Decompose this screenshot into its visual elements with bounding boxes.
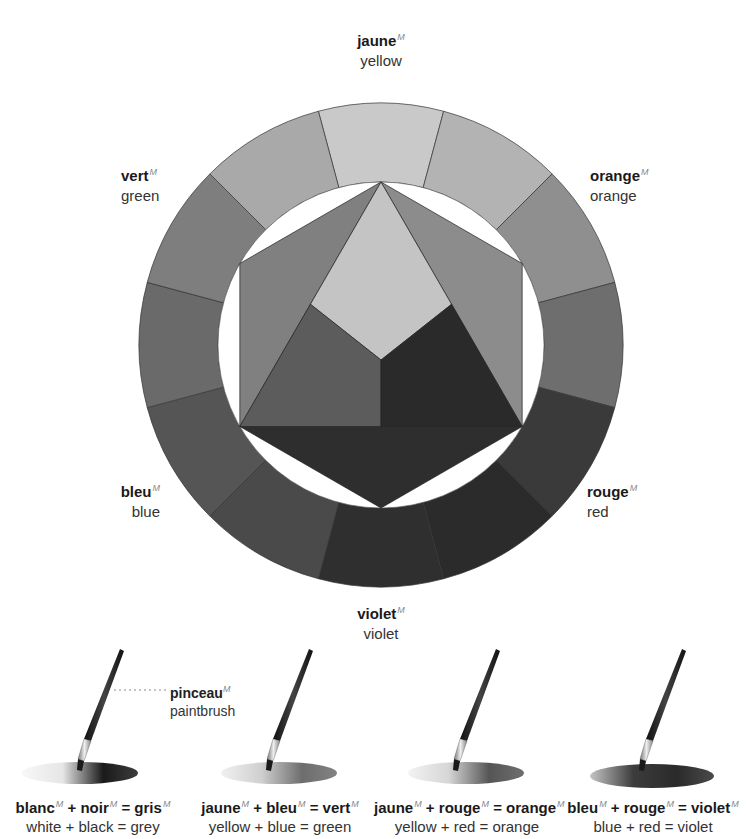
mix-caption-violet: bleuM + rougeM = violetM blue + red = vi… xyxy=(560,795,746,836)
brush-handle xyxy=(639,649,686,771)
paint-smear xyxy=(221,762,337,784)
label-green: vertM green xyxy=(121,162,201,206)
brush-handle xyxy=(266,649,313,771)
brush-handle xyxy=(453,649,500,771)
paint-smear xyxy=(590,764,714,788)
label-blue: bleuM blue xyxy=(90,478,160,522)
label-yellow: jauneM yellow xyxy=(321,27,441,71)
mix-caption-orange: jauneM + rougeM = orangeM yellow + red =… xyxy=(374,795,560,836)
paintbrush-gris xyxy=(0,643,186,793)
paint-smear xyxy=(408,762,524,784)
segment-blue-green xyxy=(139,282,224,407)
label-red: rougeM red xyxy=(587,478,667,522)
paintbrush-vert xyxy=(187,643,373,793)
color-wheel xyxy=(0,0,746,640)
mix-caption-grey: blancM + noirM = grisM white + black = g… xyxy=(0,795,186,836)
mix-caption-green: jauneM + bleuM = vertM yellow + blue = g… xyxy=(187,795,373,836)
segment-red-orange xyxy=(538,282,623,407)
paintbrush-orange xyxy=(374,643,560,793)
segment-yellow xyxy=(318,103,443,188)
segment-violet xyxy=(318,502,443,587)
label-orange: orangeM orange xyxy=(590,162,690,206)
paintbrush-violet xyxy=(560,643,746,793)
label-violet: violetM violet xyxy=(321,600,441,644)
brush-handle xyxy=(77,649,124,771)
